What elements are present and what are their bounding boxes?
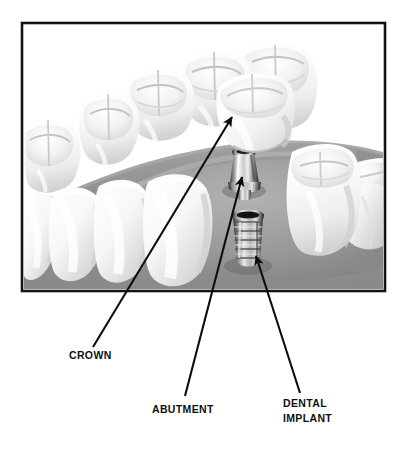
tooth-partial-left-edge	[24, 119, 81, 193]
photo-content	[24, 25, 383, 289]
abutment-connector-stub	[238, 190, 251, 200]
annotation-labels: CROWN ABUTMENT DENTAL IMPLANT	[69, 349, 332, 424]
crown-groove-buccal	[252, 74, 253, 114]
figure-canvas: CROWN ABUTMENT DENTAL IMPLANT	[0, 0, 407, 452]
tooth-anterior-4	[143, 174, 212, 286]
implant-internal-bore	[237, 211, 260, 218]
dental-implant-figure: CROWN ABUTMENT DENTAL IMPLANT	[0, 0, 407, 452]
implant-body	[233, 216, 263, 267]
label-crown: CROWN	[69, 349, 112, 361]
dental-crown	[216, 73, 294, 152]
label-dental-implant-line1: DENTAL	[283, 397, 327, 409]
photo-frame	[22, 23, 385, 291]
label-abutment: ABUTMENT	[152, 403, 214, 415]
label-dental-implant-line2: IMPLANT	[283, 412, 332, 424]
tooth-molar-right-near	[287, 144, 361, 256]
